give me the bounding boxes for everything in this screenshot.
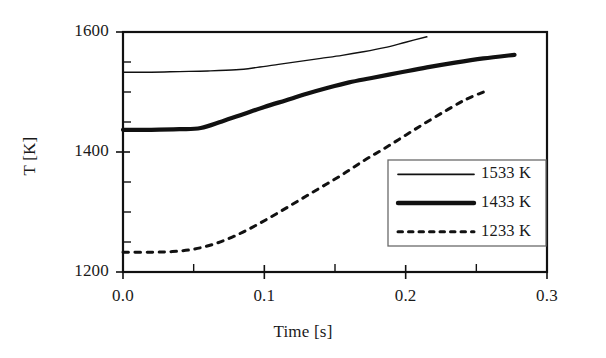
- y-tick-label: 1600: [47, 21, 109, 41]
- legend-label: 1433 K: [481, 192, 531, 212]
- legend-label: 1533 K: [481, 163, 531, 183]
- y-tick-label: 1200: [47, 261, 109, 281]
- series-line-1533-k: [123, 37, 427, 72]
- y-axis-title-wrap: T [K]: [14, 118, 44, 198]
- series-line-1433-k: [123, 55, 514, 130]
- x-tick-label: 0.3: [520, 286, 574, 306]
- chart-figure: Time [s] T [K] 1200140016000.00.10.20.3 …: [0, 0, 606, 358]
- y-axis-title: T [K]: [20, 118, 40, 194]
- x-tick-label: 0.0: [96, 286, 150, 306]
- y-tick-label: 1400: [47, 141, 109, 161]
- x-axis-title: Time [s]: [0, 322, 606, 342]
- legend-label: 1233 K: [481, 221, 531, 241]
- x-tick-label: 0.2: [379, 286, 433, 306]
- x-tick-label: 0.1: [237, 286, 291, 306]
